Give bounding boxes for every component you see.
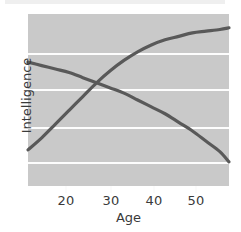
curve-layer: [28, 14, 229, 186]
xtick-label-50: 50: [176, 193, 216, 208]
declining-curve-path: [28, 62, 229, 162]
xtick-mark-50: [195, 186, 197, 193]
xtick-label-20: 20: [46, 193, 86, 208]
xtick-label-30: 30: [91, 193, 131, 208]
top-edge-band: [5, 0, 225, 4]
x-axis-title: Age: [28, 210, 229, 225]
xtick-label-40: 40: [134, 193, 174, 208]
xtick-mark-20: [65, 186, 67, 193]
xtick-mark-30: [110, 186, 112, 193]
xtick-mark-40: [153, 186, 155, 193]
plot-panel: [28, 14, 229, 186]
rising-curve-path: [28, 28, 229, 150]
y-axis-title: Intelligence: [19, 26, 34, 166]
chart-figure: 20 30 40 50 Age Intelligence: [0, 0, 241, 232]
